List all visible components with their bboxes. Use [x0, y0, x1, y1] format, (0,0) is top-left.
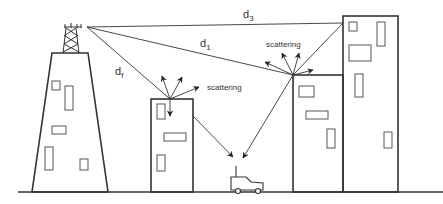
label-scattering-left: scattering: [207, 83, 242, 92]
window: [45, 147, 53, 170]
transmitter-tower: [32, 23, 108, 192]
window: [52, 81, 60, 90]
path-d3: [87, 23, 343, 27]
label-d3: d3: [243, 8, 254, 23]
label-scattering-right: scattering: [266, 40, 301, 49]
window: [80, 159, 88, 170]
label-df: df: [115, 65, 124, 80]
window: [52, 126, 66, 134]
propagation-diagram: d3 d1 df scattering scattering: [0, 0, 443, 204]
building-right-tall: [343, 16, 398, 192]
scattering-arrows-right: [265, 53, 313, 75]
path-df: [87, 27, 170, 99]
label-d1: d1: [200, 37, 211, 52]
car-receiver: [231, 166, 263, 194]
window: [65, 86, 73, 110]
building-right-short: [293, 75, 343, 192]
building-middle: [151, 99, 193, 192]
